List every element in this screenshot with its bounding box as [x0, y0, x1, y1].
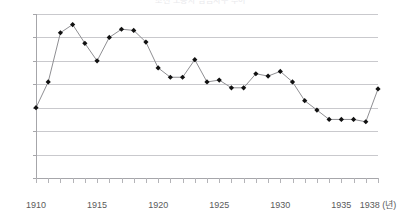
- chart-title: 조선 노동자 임금지수 추이: [0, 0, 401, 4]
- data-point: [204, 79, 209, 84]
- series-markers: [33, 22, 380, 124]
- x-tick-label: 1915: [69, 200, 125, 210]
- x-tick-mark: [378, 178, 379, 183]
- data-point: [229, 85, 234, 90]
- x-tick-label: 1925: [191, 200, 247, 210]
- data-point: [351, 117, 356, 122]
- data-point: [33, 105, 38, 110]
- x-tick-label: 1910: [8, 200, 64, 210]
- data-point: [363, 119, 368, 124]
- line-chart: 조선 노동자 임금지수 추이 00.10.20.30.40.50.60.7 19…: [0, 0, 401, 212]
- data-point: [217, 77, 222, 82]
- data-point: [46, 79, 51, 84]
- x-tick-label: 1920: [130, 200, 186, 210]
- data-point: [339, 117, 344, 122]
- x-tick-label: 1938 (년): [350, 200, 401, 210]
- plot-area: 00.10.20.30.40.50.60.7 19101915192019251…: [36, 14, 378, 178]
- series-line: [36, 25, 378, 122]
- data-point: [70, 22, 75, 27]
- data-point: [265, 73, 270, 78]
- data-point: [375, 86, 380, 91]
- data-series: [36, 14, 378, 179]
- x-tick-label: 1930: [252, 200, 308, 210]
